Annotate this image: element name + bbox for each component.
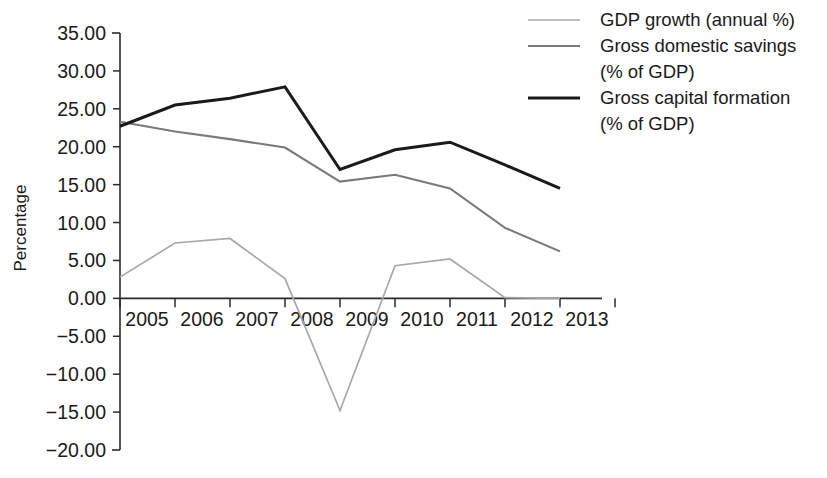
x-tick-label: 2013 (565, 308, 608, 330)
y-tick-label: 5.00 (68, 249, 106, 271)
x-axis: 200520062007200820092010201120122013 (120, 298, 615, 330)
legend-label-3: Gross capital formation (600, 87, 790, 108)
y-tick-label: 35.00 (57, 22, 106, 44)
legend-label-2: Gross domestic savings (600, 35, 796, 56)
y-tick-label: −5.00 (57, 325, 106, 347)
series-lines (120, 87, 560, 411)
y-tick-label: 0.00 (68, 287, 106, 309)
x-tick-label: 2007 (235, 308, 278, 330)
x-tick-label: 2010 (400, 308, 444, 330)
y-tick-label: 25.00 (57, 98, 106, 120)
legend-label-3-line2: (% of GDP) (600, 113, 695, 134)
x-tick-label: 2005 (125, 308, 169, 330)
series-line-3 (120, 87, 560, 189)
legend-label-2-line2: (% of GDP) (600, 61, 695, 82)
x-tick-label: 2012 (510, 308, 553, 330)
y-tick-label: 20.00 (57, 136, 106, 158)
x-tick-label: 2011 (456, 308, 498, 330)
chart-legend: GDP growth (annual %)Gross domestic savi… (528, 9, 796, 134)
x-tick-label: 2008 (290, 308, 333, 330)
y-axis-title: Percentage (11, 185, 30, 272)
y-tick-label: 15.00 (57, 174, 106, 196)
x-tick-label: 2006 (180, 308, 223, 330)
series-line-2 (120, 122, 560, 252)
y-tick-label: −15.00 (46, 401, 106, 423)
line-chart-plot: 35.0030.0025.0020.0015.0010.005.000.00−5… (0, 0, 827, 478)
y-tick-label: −20.00 (46, 439, 106, 461)
legend-label-1: GDP growth (annual %) (600, 9, 795, 30)
y-tick-label: 30.00 (57, 60, 106, 82)
y-axis: 35.0030.0025.0020.0015.0010.005.000.00−5… (46, 22, 120, 461)
x-tick-label: 2009 (345, 308, 388, 330)
y-tick-label: −10.00 (46, 363, 106, 385)
y-tick-label: 10.00 (57, 212, 106, 234)
chart-container: 35.0030.0025.0020.0015.0010.005.000.00−5… (0, 0, 827, 478)
